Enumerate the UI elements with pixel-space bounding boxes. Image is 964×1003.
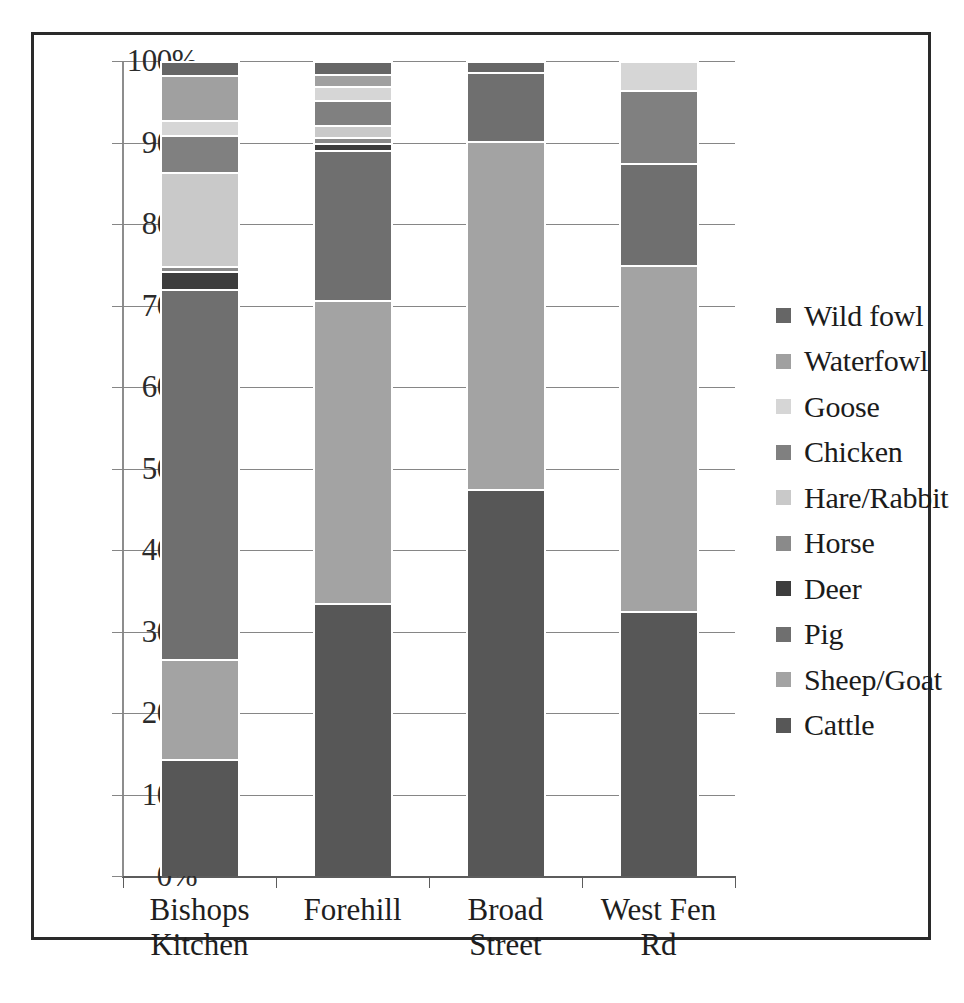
- legend-swatch-icon: [776, 627, 791, 642]
- category-tick: [276, 876, 277, 888]
- category-label: Forehill: [276, 892, 429, 927]
- bar-segment[interactable]: [160, 120, 240, 135]
- legend-label: Chicken: [804, 435, 903, 469]
- legend-item-horse[interactable]: Horse: [776, 521, 964, 567]
- legend-swatch-icon: [776, 399, 791, 414]
- legend-item-wild-fowl[interactable]: Wild fowl: [776, 293, 964, 339]
- legend-swatch-icon: [776, 445, 791, 460]
- value-tick-0: [112, 876, 123, 877]
- bar-segment[interactable]: [313, 100, 393, 124]
- bar-segment[interactable]: [619, 61, 699, 90]
- bar-segment[interactable]: [313, 86, 393, 100]
- category-label: West Fen Rd: [582, 892, 735, 962]
- bar-broad-street[interactable]: [466, 61, 546, 876]
- bar-bishops-kitchen[interactable]: [160, 61, 240, 876]
- legend-item-goose[interactable]: Goose: [776, 384, 964, 430]
- bar-segment[interactable]: [466, 141, 546, 489]
- category-label: Broad Street: [429, 892, 582, 962]
- legend-swatch-icon: [776, 308, 791, 323]
- bar-segment[interactable]: [313, 143, 393, 150]
- legend-item-deer[interactable]: Deer: [776, 566, 964, 612]
- legend-item-hare-rabbit[interactable]: Hare/Rabbit: [776, 475, 964, 521]
- bar-segment[interactable]: [160, 75, 240, 120]
- bar-segment[interactable]: [313, 137, 393, 143]
- legend-label: Cattle: [804, 708, 874, 742]
- category-label: Bishops Kitchen: [123, 892, 276, 962]
- legend-label: Wild fowl: [804, 299, 923, 333]
- legend-item-waterfowl[interactable]: Waterfowl: [776, 339, 964, 385]
- bar-segment[interactable]: [313, 603, 393, 876]
- legend-label: Waterfowl: [804, 344, 928, 378]
- bar-segment[interactable]: [466, 61, 546, 72]
- legend-swatch-icon: [776, 672, 791, 687]
- bar-segment[interactable]: [466, 489, 546, 876]
- bar-segment[interactable]: [313, 74, 393, 86]
- legend-label: Goose: [804, 390, 880, 424]
- bar-segment[interactable]: [160, 172, 240, 266]
- chart-figure: 100%90%80%70%60%50%40%30%20%10%0% Bishop…: [31, 32, 931, 940]
- bar-forehill[interactable]: [313, 61, 393, 876]
- legend-label: Deer: [804, 572, 862, 606]
- bar-segment[interactable]: [313, 61, 393, 74]
- legend-swatch-icon: [776, 490, 791, 505]
- bar-segment[interactable]: [619, 163, 699, 265]
- legend-item-sheep-goat[interactable]: Sheep/Goat: [776, 657, 964, 703]
- category-tick: [735, 876, 736, 888]
- plot-area: 100%90%80%70%60%50%40%30%20%10%0% Bishop…: [123, 61, 735, 876]
- legend-item-cattle[interactable]: Cattle: [776, 703, 964, 749]
- bar-segment[interactable]: [160, 135, 240, 172]
- legend-label: Pig: [804, 617, 843, 651]
- legend-swatch-icon: [776, 581, 791, 596]
- bar-segment[interactable]: [160, 659, 240, 759]
- chart-legend: Wild fowlWaterfowlGooseChickenHare/Rabbi…: [776, 293, 964, 748]
- legend-item-chicken[interactable]: Chicken: [776, 430, 964, 476]
- bar-west-fen-rd[interactable]: [619, 61, 699, 876]
- legend-swatch-icon: [776, 536, 791, 551]
- bar-segment[interactable]: [466, 72, 546, 140]
- bar-segment[interactable]: [160, 61, 240, 75]
- legend-label: Sheep/Goat: [804, 663, 942, 697]
- bar-segment[interactable]: [619, 90, 699, 163]
- bar-segment[interactable]: [160, 271, 240, 289]
- category-tick: [582, 876, 583, 888]
- legend-item-pig[interactable]: Pig: [776, 612, 964, 658]
- bar-segment[interactable]: [160, 289, 240, 659]
- legend-swatch-icon: [776, 354, 791, 369]
- bar-segment[interactable]: [313, 125, 393, 137]
- bar-segment[interactable]: [619, 611, 699, 876]
- category-tick: [123, 876, 124, 888]
- bar-segment[interactable]: [313, 150, 393, 300]
- legend-label: Hare/Rabbit: [804, 481, 948, 515]
- bar-segment[interactable]: [160, 266, 240, 272]
- bar-segment[interactable]: [160, 759, 240, 876]
- legend-swatch-icon: [776, 718, 791, 733]
- bar-segment[interactable]: [619, 265, 699, 611]
- legend-label: Horse: [804, 526, 875, 560]
- category-tick: [429, 876, 430, 888]
- bar-segment[interactable]: [313, 300, 393, 603]
